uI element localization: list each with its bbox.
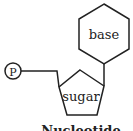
base-label: base [89,27,120,42]
diagram-caption: Nucleotide [41,123,120,131]
nucleotide-diagram: base sugar P Nucleotide [0,0,133,131]
phosphate-sugar-bond [21,71,59,87]
sugar-label: sugar [62,89,100,104]
phosphate-label: P [9,66,17,79]
